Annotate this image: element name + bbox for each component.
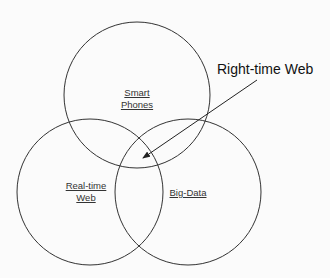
label-big-data: Big-Data	[164, 187, 212, 199]
label-smart-phones: Smart Phones	[114, 87, 160, 111]
label-real-time-web: Real-time Web	[62, 180, 110, 204]
callout-arrow	[143, 80, 257, 158]
venn-diagram	[0, 0, 330, 278]
callout-right-time-web: Right-time Web	[217, 61, 313, 77]
